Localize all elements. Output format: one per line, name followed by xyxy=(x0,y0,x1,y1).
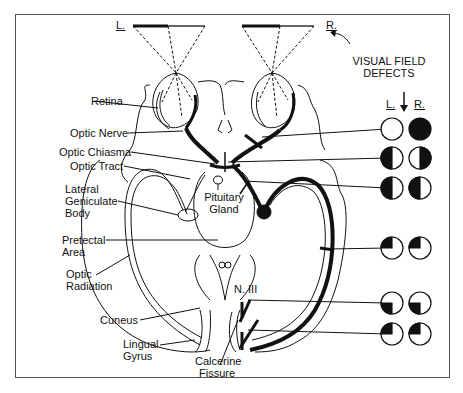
defect-circles xyxy=(381,118,431,345)
right-frontal-contour xyxy=(298,85,325,150)
label-pituitary-2: Gland xyxy=(196,203,252,215)
label-pituitary-1: Pituitary xyxy=(196,191,252,203)
left-visual-field xyxy=(133,26,205,73)
label-radiation-2: Radiation xyxy=(66,280,112,292)
defects-col-left: L. xyxy=(386,98,395,110)
label-pretectal-1: Pretectal xyxy=(62,234,105,246)
label-cuneus: Cuneus xyxy=(100,314,138,326)
defects-title-line2: DEFECTS xyxy=(334,67,444,79)
label-optic-chiasma: Optic Chiasma xyxy=(59,146,131,158)
right-optic-nerve xyxy=(232,130,280,163)
label-retina: Retina xyxy=(91,95,123,107)
label-lgb-1: Lateral xyxy=(65,183,99,195)
label-optic-tract: Optic Tract xyxy=(70,160,123,172)
right-visual-field xyxy=(242,26,314,73)
label-calcarine-2: Fissure xyxy=(199,367,235,379)
label-lgb-3: Body xyxy=(65,207,90,219)
label-pretectal-2: Area xyxy=(62,246,85,258)
label-radiation-1: Optic xyxy=(66,268,92,280)
label-lgb-2: Geniculate xyxy=(65,195,118,207)
label-lingual-2: Gyrus xyxy=(123,350,152,362)
defects-col-right: R. xyxy=(414,98,425,110)
label-lingual-1: Lingual xyxy=(123,338,158,350)
left-eye xyxy=(153,73,198,129)
label-calcarine-1: Calcerine xyxy=(195,355,241,367)
defects-title-line1: VISUAL FIELD xyxy=(334,55,444,67)
left-field-marker: L. xyxy=(116,19,125,31)
right-eye xyxy=(251,73,294,130)
left-optic-nerve xyxy=(186,128,218,163)
right-field-marker: R. xyxy=(326,19,337,31)
label-n3: N. III xyxy=(234,283,257,295)
label-optic-nerve: Optic Nerve xyxy=(70,127,128,139)
